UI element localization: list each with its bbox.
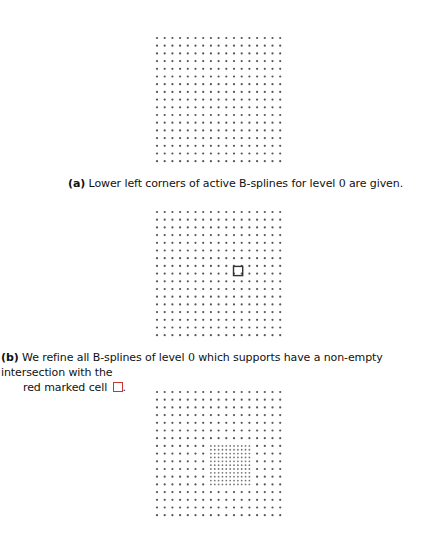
caption-label: (a) bbox=[68, 177, 85, 190]
caption-text: . bbox=[123, 381, 126, 394]
caption-text: We refine all B-splines of level bbox=[22, 351, 188, 364]
level-0-dot-grid bbox=[152, 33, 287, 168]
caption-label: (b) bbox=[1, 351, 19, 364]
caption-text: Lower left corners of active B-splines f… bbox=[89, 177, 339, 190]
caption-a: (a) Lower left corners of active B-splin… bbox=[68, 176, 403, 191]
caption-math: 0 bbox=[188, 351, 195, 364]
panel-b-grid bbox=[152, 207, 287, 342]
panel-c-grid bbox=[152, 387, 287, 522]
caption-text: are given. bbox=[346, 177, 403, 190]
panel-a-grid bbox=[152, 33, 287, 168]
caption-math: 0 bbox=[339, 177, 346, 190]
refined-dot-grid bbox=[152, 387, 287, 522]
caption-text: red marked cell bbox=[1, 381, 111, 394]
marked-cell-icon bbox=[113, 382, 123, 392]
level-0-dot-grid-marked bbox=[152, 207, 287, 342]
